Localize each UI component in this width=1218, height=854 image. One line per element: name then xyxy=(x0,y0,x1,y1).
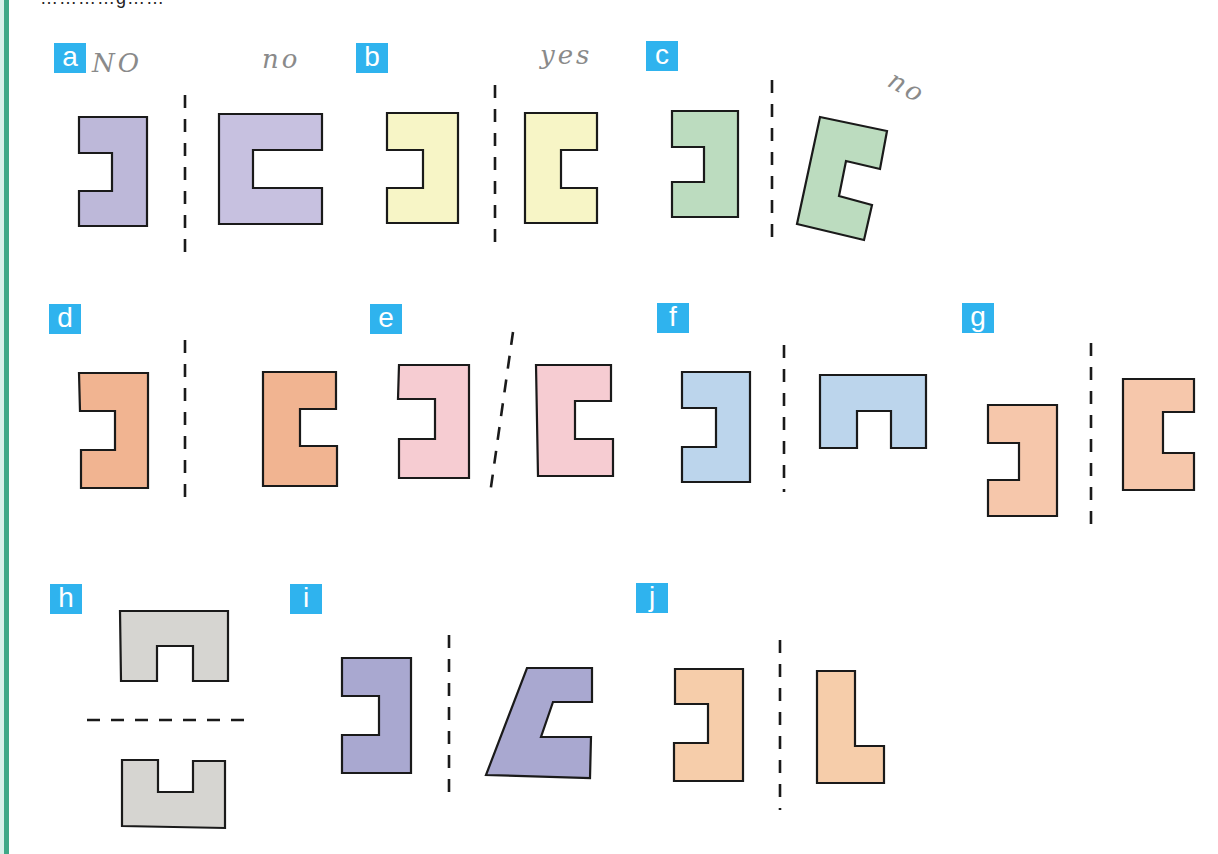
panel-f xyxy=(682,345,926,492)
reversed-c-shape xyxy=(79,117,147,226)
panel-c xyxy=(672,80,887,245)
l-shape xyxy=(817,671,884,783)
shapes-canvas xyxy=(0,0,1218,854)
reversed-c-shape xyxy=(398,365,469,478)
u-shape xyxy=(122,760,225,828)
reversed-c-shape xyxy=(682,372,750,482)
c-shape xyxy=(219,114,322,224)
panel-d xyxy=(79,340,337,498)
arch-shape xyxy=(820,375,926,448)
c-shape xyxy=(1123,379,1194,490)
reversed-c-shape xyxy=(988,405,1057,516)
reversed-c-shape xyxy=(387,113,458,223)
reversed-c-shape xyxy=(342,658,411,773)
slanted-symmetry-line xyxy=(490,332,513,494)
panel-e xyxy=(398,332,613,494)
c-shape xyxy=(536,365,613,476)
panel-b xyxy=(387,85,597,250)
reversed-c-shape xyxy=(674,669,743,781)
panel-j xyxy=(674,640,884,810)
reversed-c-shape xyxy=(672,111,738,217)
panel-h xyxy=(87,611,252,828)
c-shape xyxy=(525,113,597,223)
skewed-c-shape xyxy=(486,668,592,778)
c-shape xyxy=(263,372,337,486)
arch-shape xyxy=(120,611,228,681)
panel-a xyxy=(79,95,322,262)
rotated-c-shape xyxy=(797,117,887,240)
reversed-c-shape xyxy=(79,373,148,488)
panel-g xyxy=(988,343,1194,530)
panel-i xyxy=(342,635,592,795)
